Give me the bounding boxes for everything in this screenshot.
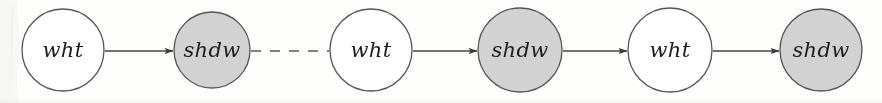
- node-n1-white[interactable]: wht: [22, 9, 104, 91]
- node-n3-white[interactable]: wht: [330, 9, 412, 91]
- node-label: wht: [351, 38, 392, 62]
- node-label: shdw: [492, 38, 549, 62]
- node-label: wht: [43, 38, 84, 62]
- node-n4-shaded[interactable]: shdw: [478, 8, 562, 92]
- node-label: wht: [650, 38, 691, 62]
- node-label: shdw: [184, 38, 241, 62]
- node-layer: whtshdwwhtshdwwhtshdw: [22, 8, 862, 92]
- node-n2-shaded[interactable]: shdw: [174, 12, 250, 88]
- node-chain-figure: whtshdwwhtshdwwhtshdw: [0, 0, 882, 103]
- diagram-canvas: whtshdwwhtshdwwhtshdw: [0, 0, 882, 103]
- node-label: shdw: [793, 38, 850, 62]
- node-n6-shaded[interactable]: shdw: [780, 9, 862, 91]
- node-n5-white[interactable]: wht: [628, 8, 712, 92]
